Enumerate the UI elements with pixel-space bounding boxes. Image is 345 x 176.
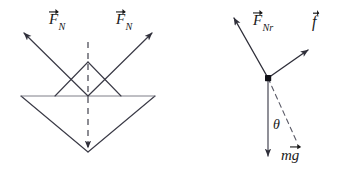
label-normal-force-right-subscript: N xyxy=(125,21,132,32)
left-normal-force-arrow xyxy=(24,33,88,96)
label-normal-force-right-base: F xyxy=(116,11,125,27)
label-angle-theta: θ xyxy=(273,118,280,132)
label-normal-force-left-base: F xyxy=(49,11,58,27)
label-normal-force-right: F N xyxy=(116,12,132,30)
label-normal-force-nr-subscript: Nr xyxy=(262,22,273,33)
origin-dot xyxy=(265,75,271,81)
right-normal-force-arrow xyxy=(88,33,152,96)
left-diagram-group xyxy=(21,33,155,152)
force-diagram-figure: F N F N F xyxy=(0,0,345,176)
label-normal-force-left: F N xyxy=(49,12,65,30)
groove-left-wall xyxy=(21,96,88,152)
right-diagram-group xyxy=(234,18,308,156)
label-weight-force: mg xyxy=(281,148,299,163)
label-normal-force-nr-base: F xyxy=(253,12,262,28)
label-normal-force-nr: F Nr xyxy=(253,13,273,31)
friction-force-arrow xyxy=(268,50,308,78)
label-friction-force-base: f xyxy=(312,13,316,30)
groove-right-wall xyxy=(88,96,155,152)
label-normal-force-left-subscript: N xyxy=(58,21,65,32)
label-friction-force: f xyxy=(312,14,316,30)
label-weight-force-base: mg xyxy=(281,147,299,163)
